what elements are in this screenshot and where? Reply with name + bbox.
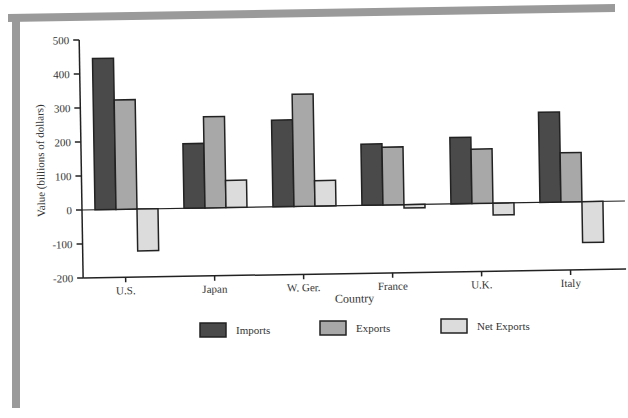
bar-exports: [471, 149, 493, 204]
x-axis-bottom: [83, 269, 626, 278]
bar-imports: [92, 58, 116, 210]
bar-imports: [361, 144, 383, 206]
y-tick-label: 100: [55, 170, 72, 182]
x-tick-label: France: [378, 280, 408, 292]
x-axis-label: Country: [335, 291, 375, 306]
bar-net-exports: [582, 201, 604, 242]
bar-imports: [183, 143, 205, 208]
plot-area: Value (billions of dollars) 500400300200…: [32, 25, 626, 311]
bar-net-exports: [137, 209, 159, 251]
bar-exports: [382, 147, 404, 205]
legend-label: Imports: [236, 324, 270, 336]
x-tick-label: Japan: [202, 283, 228, 295]
bar-exports: [560, 152, 582, 202]
y-axis-label: Value (billions of dollars): [33, 104, 48, 217]
x-tick-label: U.K.: [471, 278, 493, 290]
bar-net-exports: [226, 180, 247, 208]
bar-exports: [203, 117, 226, 208]
bar-net-exports: [404, 204, 425, 208]
legend-label: Exports: [356, 322, 390, 334]
x-tick-label: W. Ger.: [287, 281, 321, 294]
y-ticks: 5004003002001000-100-200: [49, 34, 83, 284]
x-tick-label: Italy: [561, 277, 582, 289]
bar-imports: [272, 120, 294, 207]
legend-swatch: [200, 323, 226, 337]
bar-exports: [292, 94, 315, 207]
bar-exports: [114, 100, 137, 210]
y-tick-label: -100: [52, 238, 73, 250]
y-axis: [79, 40, 83, 278]
y-tick-label: 500: [53, 34, 70, 46]
legend-label: Net Exports: [477, 320, 530, 332]
bars: [92, 50, 603, 252]
legend: ImportsExportsNet Exports: [200, 319, 530, 337]
y-tick-label: 400: [53, 68, 70, 80]
y-tick-label: 300: [54, 102, 71, 114]
bar-imports: [538, 112, 560, 202]
chart-figure: Value (billions of dollars) 500400300200…: [0, 0, 628, 418]
bar-net-exports: [315, 180, 336, 206]
legend-swatch: [441, 319, 467, 333]
bar-imports: [450, 137, 472, 204]
y-tick-label: 200: [54, 136, 71, 148]
y-tick-label: 0: [66, 204, 72, 216]
frame-left-border: [12, 16, 20, 408]
x-tick-label: U.S.: [116, 284, 136, 296]
frame-top-border: [8, 4, 615, 22]
legend-swatch: [320, 321, 346, 335]
y-tick-label: -200: [53, 272, 74, 284]
bar-net-exports: [493, 203, 514, 215]
